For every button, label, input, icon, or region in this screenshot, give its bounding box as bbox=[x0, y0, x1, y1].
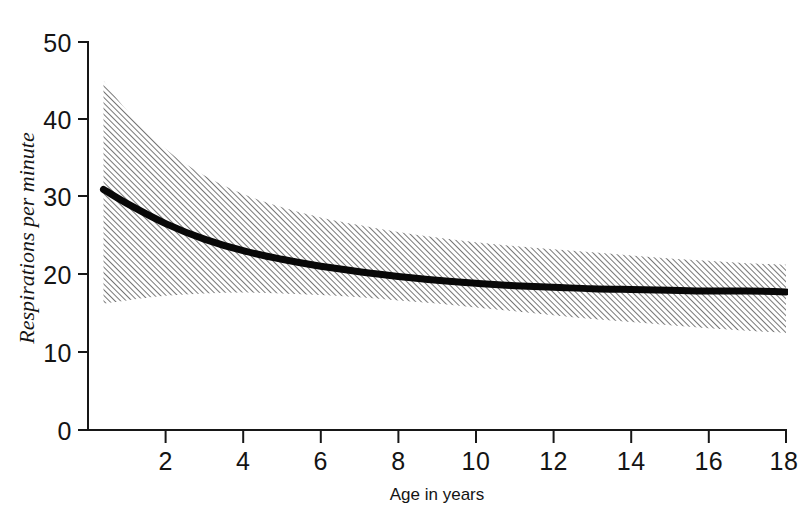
x-axis-title: Age in years bbox=[390, 485, 485, 504]
x-tick-label-2: 2 bbox=[158, 447, 172, 475]
y-tick-label-10: 10 bbox=[43, 339, 72, 367]
x-axis-ticks bbox=[166, 430, 786, 443]
x-tick-label-8: 8 bbox=[391, 447, 405, 475]
normal-range-band-smooth bbox=[104, 81, 787, 333]
y-axis-ticks bbox=[78, 42, 88, 430]
y-tick-label-30: 30 bbox=[43, 183, 72, 211]
y-tick-label-50: 50 bbox=[43, 29, 72, 57]
x-tick-label-14: 14 bbox=[617, 447, 646, 475]
x-tick-label-12: 12 bbox=[539, 447, 568, 475]
figure-container: 50 40 30 20 10 0 2 4 6 8 10 12 14 16 18 … bbox=[0, 0, 801, 524]
respiration-rate-chart: 50 40 30 20 10 0 2 4 6 8 10 12 14 16 18 … bbox=[0, 0, 801, 524]
x-tick-label-18: 18 bbox=[770, 447, 799, 475]
x-tick-label-4: 4 bbox=[236, 447, 250, 475]
y-tick-label-0: 0 bbox=[58, 417, 72, 445]
x-tick-label-10: 10 bbox=[462, 447, 491, 475]
x-tick-label-6: 6 bbox=[314, 447, 328, 475]
y-axis-title: Respirations per minute bbox=[14, 132, 39, 345]
y-tick-label-40: 40 bbox=[43, 106, 72, 134]
band-area-smooth bbox=[104, 81, 787, 333]
y-tick-label-20: 20 bbox=[43, 261, 72, 289]
x-tick-label-16: 16 bbox=[694, 447, 723, 475]
